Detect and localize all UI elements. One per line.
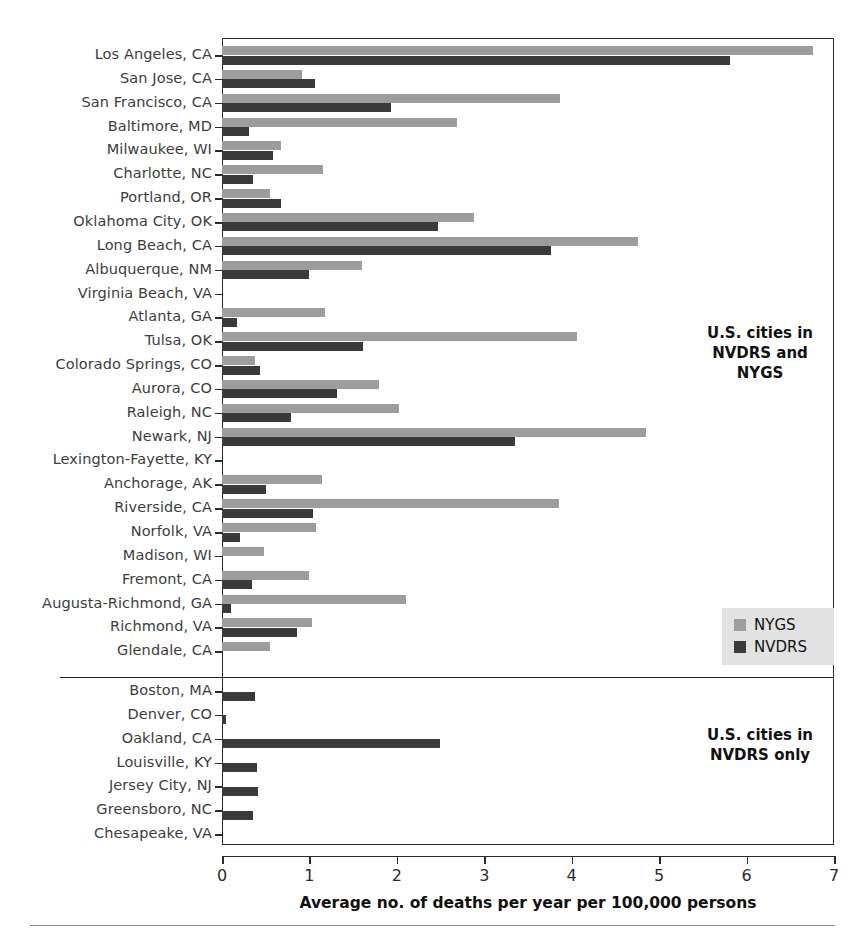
y-axis-tick bbox=[215, 556, 222, 558]
y-axis-tick bbox=[215, 437, 222, 439]
category-label: Virginia Beach, VA bbox=[78, 285, 212, 301]
y-axis-tick bbox=[215, 580, 222, 582]
bar-nygs bbox=[222, 475, 322, 484]
bar-nvdrs bbox=[222, 763, 257, 772]
bar-nygs bbox=[222, 213, 474, 222]
category-label: Glendale, CA bbox=[117, 642, 212, 658]
bar-nygs bbox=[222, 571, 309, 580]
category-label: Richmond, VA bbox=[110, 618, 212, 634]
y-axis-tick bbox=[215, 715, 222, 717]
category-label: Milwaukee, WI bbox=[107, 141, 212, 157]
legend-swatch-nygs-icon bbox=[734, 619, 746, 631]
y-axis-tick bbox=[215, 103, 222, 105]
bar-nvdrs bbox=[222, 318, 237, 327]
x-axis-tick-label: 2 bbox=[392, 866, 402, 885]
bar-row bbox=[222, 498, 834, 520]
category-label: Denver, CO bbox=[128, 706, 213, 722]
bar-nvdrs bbox=[222, 246, 551, 255]
y-axis-tick bbox=[215, 604, 222, 606]
category-label: Norfolk, VA bbox=[131, 523, 212, 539]
bar-nygs bbox=[222, 46, 813, 55]
x-axis-tick-label: 5 bbox=[654, 866, 664, 885]
bar-nygs bbox=[222, 261, 362, 270]
y-axis-tick bbox=[215, 651, 222, 653]
bar-nvdrs bbox=[222, 56, 730, 65]
bar-row bbox=[222, 284, 834, 306]
bar-row bbox=[222, 800, 834, 822]
category-label: Long Beach, CA bbox=[97, 237, 212, 253]
bar-nygs bbox=[222, 428, 646, 437]
category-label: Louisville, KY bbox=[116, 754, 212, 770]
legend-label-nvdrs: NVDRS bbox=[754, 638, 807, 656]
category-label: Charlotte, NC bbox=[113, 165, 212, 181]
legend-swatch-nvdrs-icon bbox=[734, 641, 746, 653]
bar-nygs bbox=[222, 308, 325, 317]
bar-row bbox=[222, 117, 834, 139]
category-label: Raleigh, NC bbox=[127, 404, 212, 420]
category-labels: Los Angeles, CASan Jose, CASan Francisco… bbox=[0, 38, 216, 845]
bar-row bbox=[222, 776, 834, 798]
footer-rule bbox=[30, 925, 835, 926]
y-axis-tick bbox=[215, 691, 222, 693]
legend-label-nygs: NYGS bbox=[754, 616, 796, 634]
bar-nvdrs bbox=[222, 811, 253, 820]
bar-row bbox=[222, 93, 834, 115]
bar-nvdrs bbox=[222, 739, 440, 748]
category-label: Lexington-Fayette, KY bbox=[53, 451, 212, 467]
bar-nvdrs bbox=[222, 151, 273, 160]
bar-row bbox=[222, 403, 834, 425]
y-axis-tick bbox=[215, 127, 222, 129]
bar-nvdrs bbox=[222, 127, 249, 136]
category-label: Oklahoma City, OK bbox=[73, 213, 212, 229]
y-axis-tick bbox=[215, 198, 222, 200]
y-axis-tick bbox=[215, 739, 222, 741]
category-label: Greensboro, NC bbox=[96, 801, 212, 817]
y-axis-tick bbox=[215, 365, 222, 367]
category-label: San Jose, CA bbox=[120, 70, 212, 86]
bar-row bbox=[222, 212, 834, 234]
x-axis-tick bbox=[484, 856, 486, 864]
y-axis-tick bbox=[215, 55, 222, 57]
category-label: Boston, MA bbox=[129, 682, 212, 698]
bar-row bbox=[222, 474, 834, 496]
bar-nygs bbox=[222, 165, 323, 174]
y-axis-tick bbox=[215, 150, 222, 152]
category-label: Augusta-Richmond, GA bbox=[42, 595, 212, 611]
y-axis-tick bbox=[215, 174, 222, 176]
bar-nvdrs bbox=[222, 366, 260, 375]
bar-nvdrs bbox=[222, 413, 291, 422]
category-label: Jersey City, NJ bbox=[109, 777, 212, 793]
category-label: Chesapeake, VA bbox=[94, 825, 212, 841]
bar-nygs bbox=[222, 595, 406, 604]
y-axis-tick bbox=[215, 246, 222, 248]
category-label: San Francisco, CA bbox=[81, 94, 212, 110]
y-axis-tick bbox=[215, 627, 222, 629]
y-axis-tick bbox=[215, 79, 222, 81]
bar-nygs bbox=[222, 499, 559, 508]
section-divider-line bbox=[222, 677, 834, 678]
y-axis-tick bbox=[215, 294, 222, 296]
category-label: Tulsa, OK bbox=[145, 332, 212, 348]
bar-nvdrs bbox=[222, 628, 297, 637]
annotation-nvdrs-only: U.S. cities in NVDRS only bbox=[690, 726, 830, 766]
bar-row bbox=[222, 427, 834, 449]
bar-nygs bbox=[222, 237, 638, 246]
category-label: Fremont, CA bbox=[122, 571, 212, 587]
category-label: Aurora, CO bbox=[132, 380, 212, 396]
x-axis-line bbox=[222, 856, 834, 857]
legend-item-nvdrs: NVDRS bbox=[722, 636, 834, 658]
bar-nvdrs bbox=[222, 437, 515, 446]
category-label: Newark, NJ bbox=[132, 428, 212, 444]
bar-nvdrs bbox=[222, 604, 231, 613]
bar-row bbox=[222, 69, 834, 91]
bar-nygs bbox=[222, 94, 560, 103]
x-axis-tick bbox=[309, 856, 311, 864]
bar-nvdrs bbox=[222, 485, 266, 494]
bar-nvdrs bbox=[222, 692, 255, 701]
category-label: Colorado Springs, CO bbox=[55, 356, 212, 372]
y-axis-tick bbox=[215, 222, 222, 224]
x-axis-tick bbox=[222, 856, 224, 864]
y-axis-tick bbox=[215, 532, 222, 534]
bar-nygs bbox=[222, 189, 270, 198]
bar-nvdrs bbox=[222, 533, 240, 542]
